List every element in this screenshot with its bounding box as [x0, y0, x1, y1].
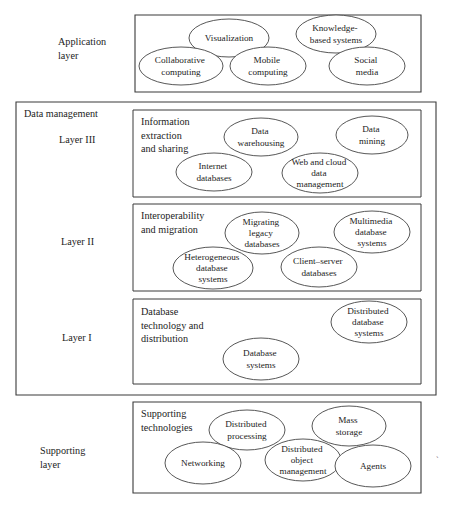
node-collaborative-computing-label: Collaborative computing	[155, 55, 207, 77]
layer-1-box-title: Database technology and distribution	[141, 306, 206, 344]
data-management-group-label: Data management	[24, 108, 98, 119]
application-layer-group: Application layer Visualization Knowledg…	[58, 15, 421, 92]
layer-2-side-label: Layer II	[61, 236, 95, 247]
node-mass-storage-label: Mass storage	[336, 415, 363, 437]
node-heterogeneous-database-systems: Heterogeneous database systems	[173, 247, 253, 289]
node-internet-databases: Internet databases	[176, 153, 252, 191]
layer-1-side-label: Layer I	[62, 332, 92, 343]
node-collaborative-computing: Collaborative computing	[139, 47, 223, 85]
node-knowledge-based-systems-label: Knowledge- based systems	[310, 23, 363, 45]
layer-3-box-title: Information extraction and sharing	[141, 116, 192, 154]
layer-3-side-label: Layer III	[59, 134, 96, 145]
stray-page-mark: `	[436, 456, 439, 465]
node-multimedia-database-systems: Multimedia database systems	[334, 211, 410, 253]
node-web-cloud-data-management: Web and cloud data management	[282, 153, 358, 193]
node-migrating-legacy-databases: Migrating legacy databases	[225, 212, 299, 254]
node-distributed-object-management: Distributed object management	[265, 439, 341, 481]
supporting-layer-group: Supporting layer Supporting technologies…	[40, 402, 421, 493]
supporting-layer-side-label: Supporting layer	[40, 445, 88, 470]
node-networking: Networking	[165, 442, 241, 484]
layered-architecture-diagram: Application layer Visualization Knowledg…	[0, 0, 452, 520]
node-mobile-computing-label: Mobile computing	[248, 55, 288, 77]
node-mobile-computing: Mobile computing	[230, 47, 306, 85]
layer-3-group: Layer III Information extraction and sha…	[59, 110, 421, 197]
application-layer-side-label-line1: Application	[58, 36, 106, 47]
node-social-media-label: Social media	[354, 55, 379, 77]
application-layer-side-label: Application layer	[58, 36, 109, 61]
supporting-layer-side-label-line2: layer	[40, 459, 61, 470]
node-data-mining: Data mining	[336, 116, 408, 154]
node-data-mining-label: Data mining	[359, 124, 385, 146]
node-social-media: Social media	[329, 47, 405, 85]
node-visualization-label: Visualization	[205, 33, 254, 43]
node-agents: Agents	[335, 445, 411, 487]
node-database-systems: Database systems	[223, 338, 299, 380]
node-distributed-database-systems: Distributed database systems	[331, 301, 407, 343]
node-mass-storage: Mass storage	[312, 406, 386, 446]
layer-2-group: Layer II Interoperability and migration …	[61, 204, 421, 291]
layer-2-box-title: Interoperability and migration	[141, 210, 207, 235]
node-agents-label: Agents	[360, 461, 386, 471]
supporting-layer-box-title: Supporting technologies	[141, 408, 193, 433]
node-internet-databases-label: Internet databases	[196, 161, 232, 183]
layer-1-group: Layer I Database technology and distribu…	[62, 299, 421, 384]
node-networking-label: Networking	[181, 458, 225, 468]
node-database-systems-label: Database systems	[243, 348, 279, 370]
node-distributed-processing-label: Distributed processing	[225, 419, 269, 441]
application-layer-side-label-line2: layer	[58, 50, 79, 61]
supporting-layer-side-label-line1: Supporting	[40, 445, 85, 456]
node-client-server-databases: Client–server databases	[281, 247, 357, 287]
data-management-group: Data management Layer III Information ex…	[16, 102, 436, 395]
node-data-warehousing: Data warehousing	[224, 118, 298, 156]
